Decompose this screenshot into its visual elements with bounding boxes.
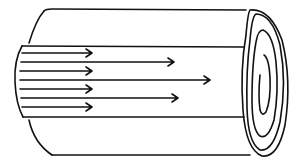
outer-cylinder — [29, 9, 250, 155]
short-flow-arrow-icon — [20, 85, 92, 93]
cylinder-diagram — [0, 0, 301, 165]
end-cap-ring-3 — [252, 30, 277, 137]
long-flow-arrow-icon — [20, 76, 210, 84]
outer-left-upper-edge — [29, 11, 44, 43]
flow-arrows — [20, 49, 210, 111]
end-cap-spiral — [259, 55, 270, 114]
short-flow-arrow-icon — [22, 103, 92, 111]
end-cap — [242, 10, 288, 156]
outer-top-edge — [44, 9, 246, 11]
short-flow-arrow-icon — [22, 49, 92, 57]
long-flow-arrow-icon — [21, 94, 178, 102]
long-flow-arrow-icon — [21, 58, 174, 66]
outer-left-lower-edge — [29, 120, 52, 155]
short-flow-arrow-icon — [20, 67, 92, 75]
inner-top-edge — [22, 46, 244, 47]
